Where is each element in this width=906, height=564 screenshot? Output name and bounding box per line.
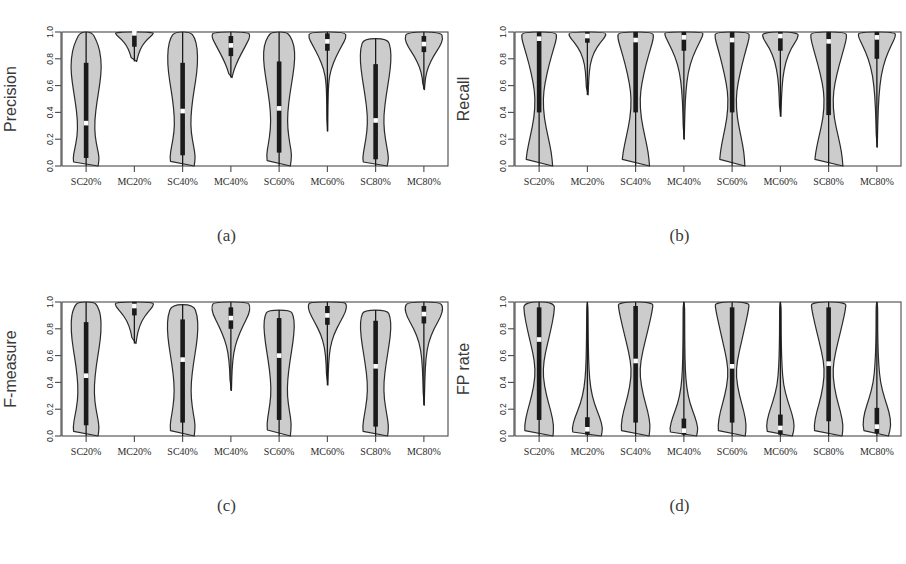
svg-text:MC20%: MC20%: [117, 446, 151, 457]
svg-text:FP rate: FP rate: [455, 343, 472, 395]
svg-text:F-measure: F-measure: [2, 330, 19, 407]
panel-a-caption: (a): [0, 226, 453, 246]
svg-text:SC20%: SC20%: [71, 176, 102, 187]
svg-text:SC60%: SC60%: [717, 176, 748, 187]
svg-text:MC40%: MC40%: [667, 176, 701, 187]
svg-text:0.8: 0.8: [45, 53, 55, 65]
panel-c: 0.00.20.40.60.81.0SC20%MC20%SC40%MC40%SC…: [0, 278, 453, 548]
panel-a-plot: 0.00.20.40.60.81.0SC20%MC20%SC40%MC40%SC…: [0, 8, 453, 233]
svg-text:0.2: 0.2: [45, 403, 55, 415]
svg-text:0.0: 0.0: [45, 160, 55, 172]
panel-d-plot: 0.00.20.40.60.81.0SC20%MC20%SC40%MC40%SC…: [453, 278, 906, 503]
svg-text:0.4: 0.4: [498, 376, 508, 388]
panel-b-caption: (b): [453, 226, 906, 246]
svg-text:MC60%: MC60%: [763, 176, 797, 187]
svg-text:0.6: 0.6: [45, 349, 55, 361]
svg-text:MC40%: MC40%: [667, 446, 701, 457]
svg-text:0.8: 0.8: [498, 53, 508, 65]
svg-text:MC80%: MC80%: [407, 176, 441, 187]
svg-text:MC40%: MC40%: [214, 446, 248, 457]
panel-b: 0.00.20.40.60.81.0SC20%MC20%SC40%MC40%SC…: [453, 8, 906, 278]
svg-text:MC60%: MC60%: [763, 446, 797, 457]
violin-plot-figure: 0.00.20.40.60.81.0SC20%MC20%SC40%MC40%SC…: [0, 0, 906, 564]
svg-text:1.0: 1.0: [45, 26, 55, 38]
svg-text:MC20%: MC20%: [117, 176, 151, 187]
svg-text:MC60%: MC60%: [310, 446, 344, 457]
svg-text:0.6: 0.6: [45, 79, 55, 91]
svg-text:Precision: Precision: [2, 66, 19, 132]
panel-c-plot: 0.00.20.40.60.81.0SC20%MC20%SC40%MC40%SC…: [0, 278, 453, 503]
svg-text:0.4: 0.4: [45, 376, 55, 388]
svg-text:0.4: 0.4: [498, 106, 508, 118]
svg-text:MC40%: MC40%: [214, 176, 248, 187]
svg-text:SC60%: SC60%: [717, 446, 748, 457]
svg-text:0.6: 0.6: [498, 349, 508, 361]
svg-text:0.8: 0.8: [45, 323, 55, 335]
svg-text:SC60%: SC60%: [264, 176, 295, 187]
panel-d-caption: (d): [453, 496, 906, 516]
svg-text:MC20%: MC20%: [570, 176, 604, 187]
svg-text:0.0: 0.0: [498, 430, 508, 442]
svg-text:SC20%: SC20%: [71, 446, 102, 457]
svg-text:SC80%: SC80%: [360, 176, 391, 187]
svg-text:1.0: 1.0: [498, 26, 508, 38]
svg-text:0.4: 0.4: [45, 106, 55, 118]
svg-text:MC60%: MC60%: [310, 176, 344, 187]
svg-text:SC20%: SC20%: [524, 176, 555, 187]
svg-text:1.0: 1.0: [498, 296, 508, 308]
panel-a: 0.00.20.40.60.81.0SC20%MC20%SC40%MC40%SC…: [0, 8, 453, 278]
svg-text:SC40%: SC40%: [167, 446, 198, 457]
svg-text:SC80%: SC80%: [813, 446, 844, 457]
svg-text:SC40%: SC40%: [167, 176, 198, 187]
svg-text:SC40%: SC40%: [620, 446, 651, 457]
svg-text:0.6: 0.6: [498, 79, 508, 91]
svg-text:MC80%: MC80%: [407, 446, 441, 457]
svg-text:SC40%: SC40%: [620, 176, 651, 187]
svg-text:0.2: 0.2: [498, 133, 508, 145]
svg-text:SC80%: SC80%: [813, 176, 844, 187]
svg-text:SC60%: SC60%: [264, 446, 295, 457]
svg-text:Recall: Recall: [455, 77, 472, 121]
svg-text:MC80%: MC80%: [860, 446, 894, 457]
svg-text:MC80%: MC80%: [860, 176, 894, 187]
svg-text:0.8: 0.8: [498, 323, 508, 335]
svg-text:0.0: 0.0: [498, 160, 508, 172]
svg-text:1.0: 1.0: [45, 296, 55, 308]
svg-text:0.2: 0.2: [498, 403, 508, 415]
svg-text:SC20%: SC20%: [524, 446, 555, 457]
panel-d: 0.00.20.40.60.81.0SC20%MC20%SC40%MC40%SC…: [453, 278, 906, 548]
panel-c-caption: (c): [0, 496, 453, 516]
svg-text:0.2: 0.2: [45, 133, 55, 145]
svg-text:0.0: 0.0: [45, 430, 55, 442]
svg-text:MC20%: MC20%: [570, 446, 604, 457]
svg-text:SC80%: SC80%: [360, 446, 391, 457]
panel-b-plot: 0.00.20.40.60.81.0SC20%MC20%SC40%MC40%SC…: [453, 8, 906, 233]
